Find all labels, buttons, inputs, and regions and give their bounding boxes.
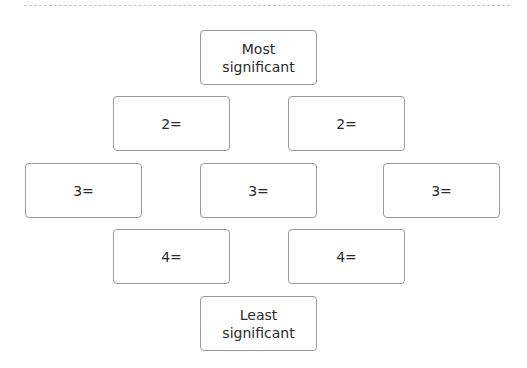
box-label: 2= <box>161 115 182 133</box>
box-label: 3= <box>431 182 452 200</box>
box-rank-3-center: 3= <box>200 163 317 218</box>
box-label: 3= <box>73 182 94 200</box>
box-label: Least significant <box>222 306 294 342</box>
box-rank-2-right: 2= <box>288 96 405 151</box>
box-rank-3-left: 3= <box>25 163 142 218</box>
box-rank-4-left: 4= <box>113 229 230 284</box>
box-label: 3= <box>248 182 269 200</box>
box-label: 4= <box>161 248 182 266</box>
box-label: Most significant <box>222 40 294 76</box>
box-rank-4-right: 4= <box>288 229 405 284</box>
box-most-significant: Most significant <box>200 30 317 85</box>
dashed-divider <box>24 5 510 6</box>
box-label: 2= <box>336 115 357 133</box>
box-least-significant: Least significant <box>200 296 317 351</box>
box-rank-2-left: 2= <box>113 96 230 151</box>
box-label: 4= <box>336 248 357 266</box>
box-rank-3-right: 3= <box>383 163 500 218</box>
